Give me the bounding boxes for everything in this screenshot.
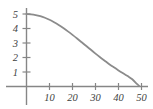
y-tick-label-3: 3 (12, 38, 18, 49)
x-axis-tick-labels: 10 20 30 40 50 (44, 92, 147, 103)
chart-plot-area: 5 4 3 2 1 10 20 30 40 50 (0, 0, 153, 109)
x-tick-label-10: 10 (44, 92, 55, 103)
y-tick-label-1: 1 (13, 67, 18, 78)
x-tick-label-20: 20 (67, 92, 78, 103)
x-tick-label-40: 40 (113, 92, 124, 103)
y-axis-tick-labels: 5 4 3 2 1 (12, 9, 19, 78)
y-tick-label-2: 2 (13, 52, 19, 63)
x-tick-label-30: 30 (89, 92, 101, 103)
y-tick-label-5: 5 (13, 9, 18, 20)
x-tick-label-50: 50 (136, 92, 147, 103)
y-tick-label-4: 4 (13, 23, 19, 34)
decay-curve (27, 14, 140, 86)
chart-container: 5 4 3 2 1 10 20 30 40 50 (0, 0, 153, 109)
